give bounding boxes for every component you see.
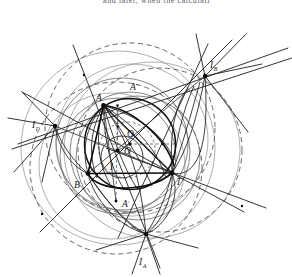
- geometry-diagram: A B Γ A″ A′ O O′ I IΓ IB IA: [0, 0, 292, 277]
- label-a-double-marks: ″: [136, 83, 139, 89]
- ray-ia-right: [146, 234, 198, 248]
- label-vertex-gamma: Γ: [176, 177, 183, 187]
- dot-midpoint-m: [117, 125, 119, 127]
- line-igamma-ib: [18, 48, 288, 144]
- dot-vertex-gamma: [170, 171, 175, 176]
- dot-aux-upper-left: [83, 74, 85, 76]
- dot-vertex-b: [86, 171, 91, 176]
- label-igamma-subscript: Γ: [35, 126, 40, 132]
- ray-ib-up: [196, 34, 205, 76]
- dot-a-double: [116, 104, 119, 107]
- label-ib-subscript: B: [214, 66, 218, 72]
- line-igamma-a-extended: [12, 58, 292, 149]
- label-a-prime-mark: ′: [128, 200, 130, 206]
- clipped-caption-strip: and later, when the calculati: [103, 0, 289, 7]
- dot-a-prime: [115, 200, 118, 203]
- heavy-arc-base: [88, 173, 172, 188]
- label-excenter-i-b: IB: [209, 60, 218, 72]
- label-excenter-i-a: IA: [138, 257, 147, 269]
- dot-excenter-ia: [144, 232, 148, 236]
- side-b-gamma: [88, 173, 172, 174]
- dot-aux-arc-right: [162, 143, 165, 146]
- label-a-prime: A′: [121, 199, 130, 209]
- dot-vertex-a: [101, 103, 106, 108]
- label-excenter-i-gamma: IΓ: [31, 120, 40, 132]
- label-o-prime: O′: [124, 146, 133, 156]
- dot-aux-right: [241, 205, 243, 207]
- ray-ia-down-right: [146, 234, 160, 274]
- clipped-caption-text: and later, when the calculati: [103, 0, 210, 5]
- label-a-double: A″: [129, 82, 139, 92]
- figure-root: and later, when the calculati: [0, 0, 292, 277]
- dot-excenter-igamma: [53, 124, 57, 128]
- dot-aux-left: [41, 213, 43, 215]
- ray-ib-down-right: [205, 76, 248, 132]
- dot-excenter-ib: [203, 74, 207, 78]
- ray-ia-left: [96, 234, 146, 250]
- label-ia-subscript: A: [142, 263, 147, 269]
- label-vertex-b: B: [74, 180, 80, 190]
- dot-incenter-i: [116, 149, 120, 153]
- label-circumcenter-o: O: [127, 129, 134, 139]
- ray-igamma-down-left: [14, 126, 55, 172]
- label-vertex-a: A: [95, 93, 102, 103]
